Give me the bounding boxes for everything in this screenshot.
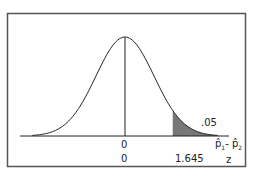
p1-subscript: 1 <box>221 144 225 151</box>
p2-subscript: 2 <box>238 144 242 151</box>
critical-value-label: 1.645 <box>175 154 204 164</box>
minus-sign: - <box>225 138 232 149</box>
tail-area-label: .05 <box>201 118 217 128</box>
center-label-z: 0 <box>121 154 127 164</box>
axis-label-difference: p̂1- p̂2 <box>215 139 242 149</box>
axis-label-z: z <box>226 155 231 165</box>
center-label-diff: 0 <box>121 140 127 150</box>
